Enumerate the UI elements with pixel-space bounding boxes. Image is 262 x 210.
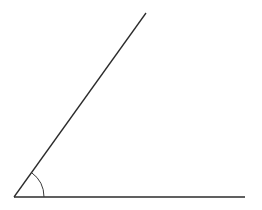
angle-svg xyxy=(0,0,262,210)
angle-diagram xyxy=(0,0,262,210)
angle-arc xyxy=(32,173,45,197)
slanted-ray xyxy=(14,13,146,197)
